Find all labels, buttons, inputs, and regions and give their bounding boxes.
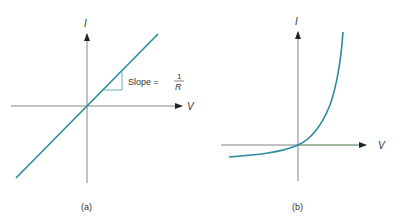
panel-b-exponential-curve <box>229 32 343 157</box>
panel-a-y-label: I <box>84 18 87 29</box>
figure-svg: I V Slope = 1 R (a) I V (b) <box>0 0 396 219</box>
slope-fraction-den: R <box>175 82 182 92</box>
panel-b: I V (b) <box>221 16 386 212</box>
panel-b-x-label: V <box>378 140 386 151</box>
panel-a: I V Slope = 1 R (a) <box>11 18 195 212</box>
panel-a-caption: (a) <box>81 202 92 212</box>
panel-b-caption: (b) <box>292 202 303 212</box>
panel-b-y-label: I <box>295 16 298 27</box>
slope-fraction-num: 1 <box>177 72 182 81</box>
panel-a-x-label: V <box>187 101 195 112</box>
iv-characteristics-figure: I V Slope = 1 R (a) I V (b) <box>0 0 396 219</box>
slope-label: Slope = <box>128 77 159 87</box>
